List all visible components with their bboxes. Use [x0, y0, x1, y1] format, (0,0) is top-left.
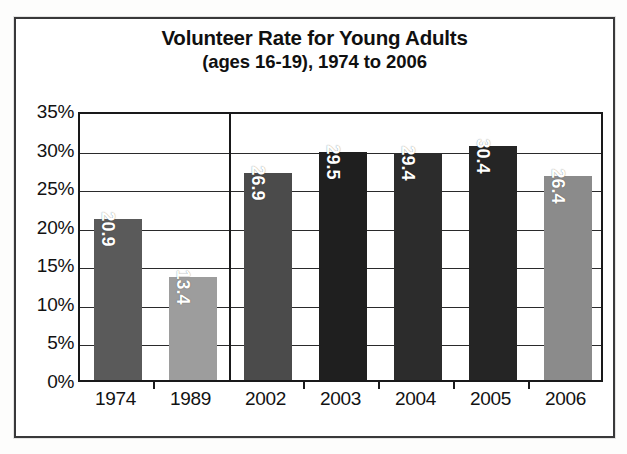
x-axis-tick-2005: 2005	[470, 388, 511, 410]
tick-mark-6	[528, 382, 530, 389]
bar-value-label-2006: 26.4	[547, 169, 568, 204]
bar-value-label-2004: 29.4	[397, 146, 418, 181]
bar-value-label-1989: 13.4	[172, 269, 193, 304]
bar-1974: 20.9	[94, 219, 142, 380]
tick-mark-3	[303, 382, 305, 389]
tick-mark-4	[378, 382, 380, 389]
chart-title-line-1: Volunteer Rate for Young Adults	[14, 26, 615, 50]
x-axis-tick-1974: 1974	[95, 388, 136, 410]
y-axis-tick-labels: 35%30%25%20%15%10%5%0%	[0, 112, 74, 382]
x-axis-tick-2004: 2004	[395, 388, 436, 410]
plot-area: 20.913.426.929.529.430.426.4	[78, 112, 603, 382]
x-axis-tick-2003: 2003	[320, 388, 361, 410]
y-axis-tick-10: 10%	[2, 294, 74, 316]
x-axis-tick-2002: 2002	[245, 388, 286, 410]
y-axis-tick-35: 35%	[2, 101, 74, 123]
tick-mark-1	[153, 382, 155, 389]
x-axis-tick-1989: 1989	[170, 388, 211, 410]
y-axis-tick-5: 5%	[2, 332, 74, 354]
bar-2004: 29.4	[394, 153, 442, 380]
scan-background: Volunteer Rate for Young Adults (ages 16…	[0, 0, 627, 454]
bar-2005: 30.4	[469, 146, 517, 381]
bar-2003: 29.5	[319, 152, 367, 380]
y-axis-tick-30: 30%	[2, 140, 74, 162]
bar-value-label-2005: 30.4	[472, 138, 493, 173]
x-axis-tick-labels: 1974198920022003200420052006	[78, 388, 603, 428]
y-axis-tick-20: 20%	[2, 217, 74, 239]
era-separator-line	[229, 114, 231, 380]
chart-title: Volunteer Rate for Young Adults (ages 16…	[14, 26, 615, 73]
y-axis-tick-15: 15%	[2, 255, 74, 277]
bar-value-label-2002: 26.9	[247, 165, 268, 200]
bar-2002: 26.9	[244, 173, 292, 381]
y-axis-tick-25: 25%	[2, 178, 74, 200]
x-axis-tick-2006: 2006	[545, 388, 586, 410]
tick-mark-5	[453, 382, 455, 389]
bar-value-label-2003: 29.5	[322, 145, 343, 180]
bar-2006: 26.4	[544, 176, 592, 380]
y-axis-tick-0: 0%	[2, 371, 74, 393]
bar-value-label-1974: 20.9	[97, 211, 118, 246]
bar-1989: 13.4	[169, 277, 217, 380]
chart-title-line-2: (ages 16-19), 1974 to 2006	[14, 51, 615, 73]
